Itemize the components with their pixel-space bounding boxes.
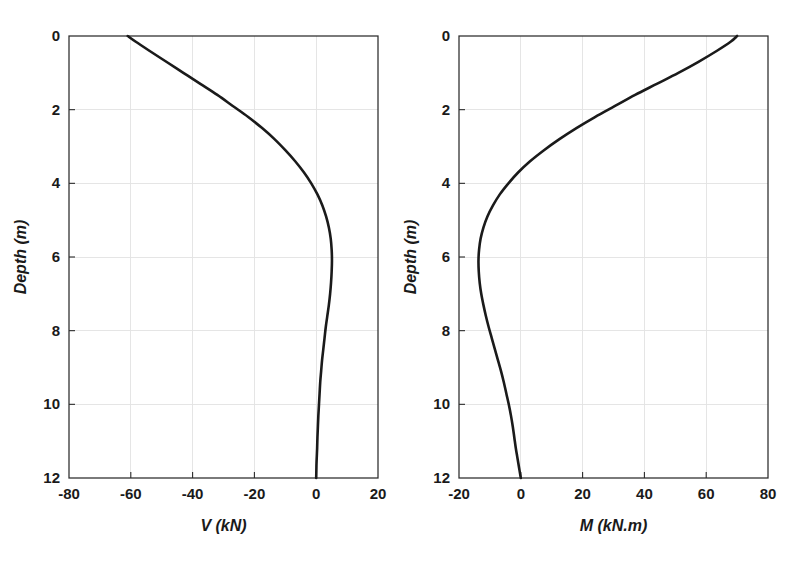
bending-moment-x-axis-title: M (kN.m) xyxy=(580,517,648,534)
bending-moment-ytick-label: 4 xyxy=(442,174,451,191)
bending-moment-ytick-label: 2 xyxy=(442,101,450,118)
shear-force-ticks: -80-60-40-20020024681012 xyxy=(43,27,386,502)
shear-force-ytick-label: 0 xyxy=(52,27,60,44)
bending-moment-panel: -20020406080024681012M (kN.m)Depth (m) xyxy=(390,0,790,573)
shear-force-xtick-label: 20 xyxy=(370,485,387,502)
shear-force-xtick-label: -40 xyxy=(182,485,204,502)
shear-force-plot: -80-60-40-20020024681012V (kN)Depth (m) xyxy=(0,0,400,573)
shear-force-ytick-label: 2 xyxy=(52,101,60,118)
bending-moment-xtick-label: 20 xyxy=(574,485,591,502)
bending-moment-ticks: -20020406080024681012 xyxy=(433,27,776,502)
shear-force-ytick-label: 8 xyxy=(52,322,60,339)
figure-page: -80-60-40-20020024681012V (kN)Depth (m) … xyxy=(0,0,790,573)
shear-force-ytick-label: 10 xyxy=(43,395,60,412)
shear-force-xtick-label: -20 xyxy=(244,485,266,502)
bending-moment-ytick-label: 6 xyxy=(442,248,450,265)
shear-force-ytick-label: 6 xyxy=(52,248,60,265)
shear-force-xtick-label: -80 xyxy=(58,485,80,502)
bending-moment-ytick-label: 12 xyxy=(433,469,450,486)
shear-force-panel: -80-60-40-20020024681012V (kN)Depth (m) xyxy=(0,0,400,573)
two-panel-figure: -80-60-40-20020024681012V (kN)Depth (m) … xyxy=(0,0,790,573)
shear-force-x-axis-title: V (kN) xyxy=(200,517,246,534)
bending-moment-y-axis-title: Depth (m) xyxy=(402,220,419,295)
shear-force-xtick-label: -60 xyxy=(120,485,142,502)
bending-moment-xtick-label: 60 xyxy=(698,485,715,502)
bending-moment-ytick-label: 10 xyxy=(433,395,450,412)
shear-force-ytick-label: 12 xyxy=(43,469,60,486)
bending-moment-xtick-label: 40 xyxy=(636,485,653,502)
bending-moment-gridlines xyxy=(459,36,768,478)
bending-moment-ytick-label: 8 xyxy=(442,322,450,339)
bending-moment-xtick-label: 0 xyxy=(517,485,525,502)
bending-moment-xtick-label: -20 xyxy=(448,485,470,502)
shear-force-y-axis-title: Depth (m) xyxy=(12,220,29,295)
bending-moment-ytick-label: 0 xyxy=(442,27,450,44)
shear-force-ytick-label: 4 xyxy=(52,174,61,191)
bending-moment-xtick-label: 80 xyxy=(760,485,777,502)
bending-moment-plot: -20020406080024681012M (kN.m)Depth (m) xyxy=(390,0,790,573)
shear-force-xtick-label: 0 xyxy=(312,485,320,502)
